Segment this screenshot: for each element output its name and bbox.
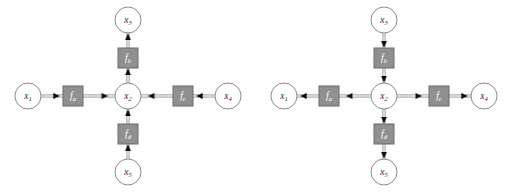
factor-node-fb[interactable]: fb bbox=[374, 48, 394, 68]
factor-graph-figure: fafbfcfdx1x2x3x4x5 fafbfcfdx1x2x3x4x5 bbox=[0, 0, 512, 192]
arrow-up-icon bbox=[125, 69, 131, 76]
edge-fc-x2 bbox=[141, 93, 173, 99]
edge-x4-fc bbox=[193, 93, 215, 99]
arrow-up-icon bbox=[125, 110, 131, 117]
factor-graph-messages-from-x3-outward: fafbfcfdx1x2x3x4x5 bbox=[256, 0, 512, 192]
edge-fc-x4 bbox=[449, 93, 471, 99]
variable-node-x5[interactable]: x5 bbox=[371, 159, 397, 185]
arrow-up-icon bbox=[125, 145, 131, 152]
edge-x2-fa bbox=[339, 93, 371, 99]
arrow-right-icon bbox=[102, 93, 109, 99]
edge-fb-x3 bbox=[125, 33, 131, 48]
edge-x2-fd bbox=[381, 109, 387, 124]
factor-graph-panel-left: fafbfcfdx1x2x3x4x5 bbox=[0, 0, 256, 192]
factor-node-fc[interactable]: fc bbox=[429, 86, 449, 106]
edge-fd-x2 bbox=[125, 109, 131, 124]
edge-x1-fa bbox=[41, 93, 63, 99]
arrow-right-icon bbox=[461, 93, 468, 99]
edge-fa-x2 bbox=[83, 93, 115, 99]
factor-node-fb[interactable]: fb bbox=[118, 48, 138, 68]
edge-fd-x5 bbox=[381, 144, 387, 159]
variable-node-x1[interactable]: x1 bbox=[15, 83, 41, 109]
factor-node-fd[interactable]: fd bbox=[118, 124, 138, 144]
arrow-right-icon bbox=[416, 93, 423, 99]
factor-node-fc[interactable]: fc bbox=[173, 86, 193, 106]
edge-x2-fb bbox=[125, 68, 131, 83]
arrow-up-icon bbox=[125, 34, 131, 41]
factor-node-fa[interactable]: fa bbox=[319, 86, 339, 106]
edge-fa-x1 bbox=[297, 93, 319, 99]
variable-node-x1[interactable]: x1 bbox=[271, 83, 297, 109]
factor-graph-messages-toward-x3: fafbfcfdx1x2x3x4x5 bbox=[0, 0, 256, 192]
factor-node-fa[interactable]: fa bbox=[63, 86, 83, 106]
variable-node-x4[interactable]: x4 bbox=[215, 83, 241, 109]
variable-node-x2[interactable]: x2 bbox=[115, 83, 141, 109]
arrow-left-icon bbox=[346, 93, 353, 99]
edge-fb-x2 bbox=[381, 68, 387, 83]
arrow-left-icon bbox=[300, 93, 307, 99]
factor-node-fd[interactable]: fd bbox=[374, 124, 394, 144]
factor-graph-panel-right: fafbfcfdx1x2x3x4x5 bbox=[256, 0, 512, 192]
arrow-down-icon bbox=[381, 76, 387, 83]
variable-node-x4[interactable]: x4 bbox=[471, 83, 497, 109]
variable-node-x2[interactable]: x2 bbox=[371, 83, 397, 109]
edge-x2-fc bbox=[397, 93, 429, 99]
variable-node-x5[interactable]: x5 bbox=[115, 159, 141, 185]
variable-node-x3[interactable]: x3 bbox=[115, 7, 141, 33]
edge-x5-fd bbox=[125, 144, 131, 159]
arrow-down-icon bbox=[381, 41, 387, 48]
arrow-left-icon bbox=[148, 93, 155, 99]
arrow-down-icon bbox=[381, 152, 387, 159]
arrow-left-icon bbox=[196, 93, 203, 99]
variable-node-x3[interactable]: x3 bbox=[371, 7, 397, 33]
edge-x3-fb bbox=[381, 33, 387, 48]
arrow-down-icon bbox=[381, 117, 387, 124]
arrow-right-icon bbox=[53, 93, 60, 99]
